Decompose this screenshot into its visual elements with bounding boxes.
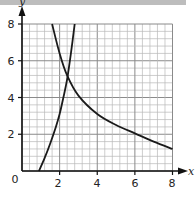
x-tick-8: 8 (169, 177, 176, 190)
y-axis-label: y (18, 0, 26, 8)
chart-area: x y 0 2 4 6 8 2 4 6 8 (0, 0, 196, 201)
x-tick-2: 2 (55, 177, 62, 190)
y-tick-2: 2 (8, 128, 15, 141)
x-tick-4: 4 (94, 177, 101, 190)
y-tick-8: 8 (8, 18, 15, 31)
y-tick-4: 4 (8, 92, 15, 105)
y-tick-6: 6 (8, 55, 15, 68)
x-tick-6: 6 (132, 177, 139, 190)
origin-label: 0 (12, 173, 19, 186)
x-axis-arrow-icon (178, 168, 188, 175)
x-axis-label: x (188, 165, 195, 178)
grid (18, 24, 173, 175)
